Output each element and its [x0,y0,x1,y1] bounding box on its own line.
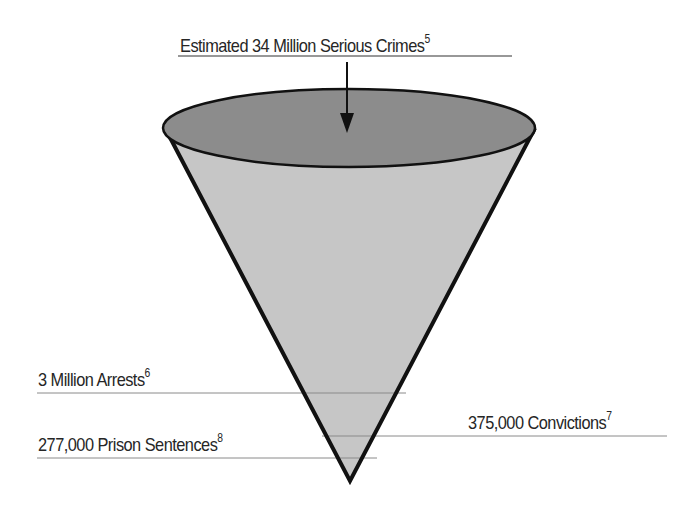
funnel-title: Estimated 34 Million Serious Crimes5 [180,34,430,57]
arrests-footnote: 6 [145,366,150,380]
cone-top-ellipse [163,89,535,167]
convictions-footnote: 7 [606,409,611,423]
arrests-label: 3 Million Arrests6 [38,368,150,391]
arrests-text: 3 Million Arrests [38,369,145,390]
prison-sentences-footnote: 8 [217,431,222,445]
convictions-text: 375,000 Convictions [468,412,606,433]
title-footnote: 5 [424,32,429,46]
convictions-label: 375,000 Convictions7 [468,411,611,434]
prison-sentences-label: 277,000 Prison Sentences8 [38,433,223,456]
crime-funnel-diagram: Estimated 34 Million Serious Crimes5 3 M… [0,0,700,507]
prison-sentences-text: 277,000 Prison Sentences [38,434,217,455]
title-text: Estimated 34 Million Serious Crimes [180,35,424,56]
